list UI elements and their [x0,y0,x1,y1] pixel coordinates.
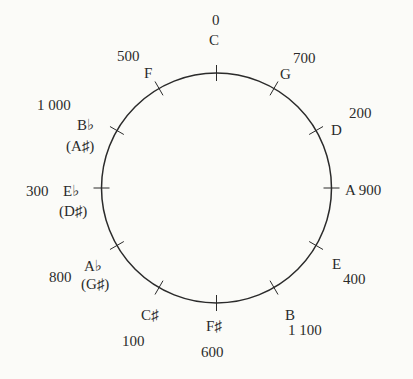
value-a: 900 [359,182,382,198]
note-f-sharp: F♯ [206,318,222,334]
note-b-flat: B♭ [77,117,94,133]
tick-B [270,281,278,295]
value-d: 200 [349,105,372,121]
note-c-sharp: C♯ [141,307,159,323]
note-c: C [209,32,219,48]
tick-marks [94,65,340,311]
value-f-sharp: 600 [201,344,224,360]
tick-G [270,81,278,95]
note-d-sharp: (D♯) [59,203,87,219]
value-a-flat: 800 [49,269,72,285]
tick-B♭ [110,127,124,135]
tick-E [309,242,323,250]
tick-F [155,81,163,95]
note-e-flat: E♭ [63,183,79,199]
value-g: 700 [293,50,316,66]
value-b-flat: 1 000 [37,97,71,113]
tick-D [309,127,323,135]
tick-A♭ [110,242,124,250]
value-b: 1 100 [288,322,322,338]
value-c: 0 [212,12,220,28]
note-g: G [280,66,291,82]
tick-C♯ [155,281,163,295]
note-d: D [331,122,342,138]
value-e: 400 [343,271,366,287]
note-a-name: A [345,182,355,198]
note-a: A 900 [345,182,381,198]
circle-of-fifths-diagram: 0 C G 700 D 200 A 900 E 400 B 1 100 F♯ 6… [0,0,413,379]
note-a-sharp: (A♯) [66,138,94,154]
note-b: B [285,307,295,323]
note-a-flat: A♭ [84,258,102,274]
note-g-sharp: (G♯) [81,276,109,292]
note-e: E [332,256,341,272]
value-c-sharp: 100 [122,333,145,349]
pitch-circle [102,73,332,303]
value-f: 500 [117,48,140,64]
note-f: F [144,65,152,81]
value-e-flat: 300 [26,183,49,199]
